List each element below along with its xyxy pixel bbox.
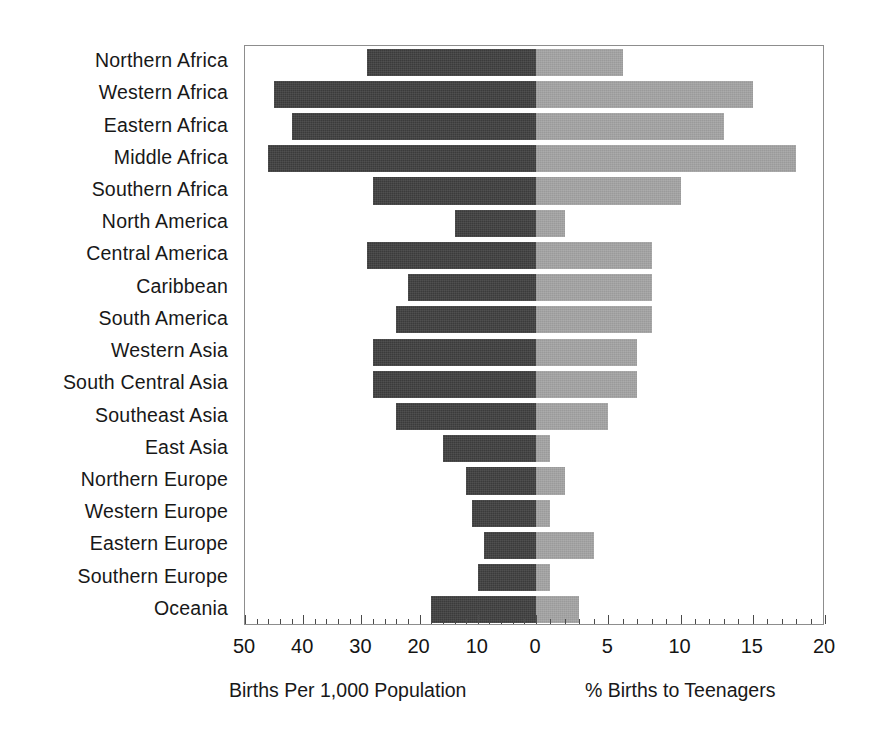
axis-tick-minor — [385, 619, 386, 624]
bar-row — [245, 49, 823, 76]
axis-tick-minor — [396, 619, 397, 624]
axis-tick-label: 50 — [214, 636, 274, 656]
category-label: Eastern Europe — [0, 534, 228, 554]
category-label: Oceania — [0, 599, 228, 619]
category-label: Eastern Africa — [0, 116, 228, 136]
axis-tick-minor — [724, 619, 725, 624]
axis-tick-minor — [738, 619, 739, 624]
axis-tick-major — [753, 615, 754, 624]
category-label: Western Asia — [0, 341, 228, 361]
bar-births-per-1000 — [292, 113, 536, 140]
axis-tick-minor — [782, 619, 783, 624]
bar-births-per-1000 — [455, 210, 536, 237]
axis-tick-minor — [292, 619, 293, 624]
plot-area — [244, 45, 824, 625]
axis-tick-minor — [513, 619, 514, 624]
bar-row — [245, 403, 823, 430]
bar-births-per-1000 — [478, 564, 536, 591]
bar-percent-teen-births — [536, 403, 608, 430]
axis-tick-major — [825, 615, 826, 624]
births-teen-pregnancy-chart: Northern AfricaWestern AfricaEastern Afr… — [0, 0, 881, 734]
axis-tick-minor — [709, 619, 710, 624]
axis-tick-major — [245, 615, 246, 624]
axis-tick-minor — [652, 619, 653, 624]
axis-tick-minor — [280, 619, 281, 624]
category-label: Northern Africa — [0, 51, 228, 71]
bar-row — [245, 81, 823, 108]
axis-tick-label: 30 — [330, 636, 390, 656]
bar-births-per-1000 — [373, 371, 536, 398]
bar-births-per-1000 — [373, 177, 536, 204]
bar-row — [245, 145, 823, 172]
bars-layer — [245, 46, 823, 624]
axis-tick-minor — [565, 619, 566, 624]
axis-tick-minor — [666, 619, 667, 624]
bar-percent-teen-births — [536, 371, 637, 398]
axis-tick-minor — [443, 619, 444, 624]
axis-tick-minor — [268, 619, 269, 624]
axis-tick-major — [478, 615, 479, 624]
bar-percent-teen-births — [536, 596, 579, 623]
bar-percent-teen-births — [536, 145, 796, 172]
axis-tick-minor — [637, 619, 638, 624]
category-label: Middle Africa — [0, 148, 228, 168]
bar-percent-teen-births — [536, 339, 637, 366]
axis-tick-major — [303, 615, 304, 624]
category-label: Western Europe — [0, 502, 228, 522]
axis-tick-minor — [594, 619, 595, 624]
bar-row — [245, 113, 823, 140]
axis-tick-minor — [796, 619, 797, 624]
axis-tick-minor — [695, 619, 696, 624]
bar-births-per-1000 — [431, 596, 536, 623]
axis-tick-minor — [455, 619, 456, 624]
left-axis-caption: Births Per 1,000 Population — [229, 681, 466, 701]
bar-percent-teen-births — [536, 564, 550, 591]
category-label: Northern Europe — [0, 470, 228, 490]
category-label: Southern Europe — [0, 567, 228, 587]
axis-tick-minor — [373, 619, 374, 624]
bar-births-per-1000 — [367, 49, 536, 76]
axis-tick-minor — [489, 619, 490, 624]
bar-row — [245, 274, 823, 301]
axis-tick-major — [536, 615, 537, 624]
axis-tick-minor — [579, 619, 580, 624]
category-label: South Central Asia — [0, 373, 228, 393]
bar-births-per-1000 — [408, 274, 536, 301]
bar-percent-teen-births — [536, 81, 753, 108]
bar-row — [245, 564, 823, 591]
bar-births-per-1000 — [396, 403, 536, 430]
axis-tick-label: 15 — [722, 636, 782, 656]
axis-tick-minor — [466, 619, 467, 624]
axis-tick-minor — [550, 619, 551, 624]
axis-tick-minor — [431, 619, 432, 624]
axis-tick-minor — [408, 619, 409, 624]
bar-row — [245, 435, 823, 462]
bar-percent-teen-births — [536, 435, 550, 462]
bar-births-per-1000 — [472, 500, 536, 527]
bar-row — [245, 242, 823, 269]
category-label: Southeast Asia — [0, 406, 228, 426]
bar-row — [245, 371, 823, 398]
bar-percent-teen-births — [536, 306, 652, 333]
bar-percent-teen-births — [536, 210, 565, 237]
axis-tick-minor — [623, 619, 624, 624]
category-label: Southern Africa — [0, 180, 228, 200]
bar-percent-teen-births — [536, 274, 652, 301]
axis-tick-label: 40 — [272, 636, 332, 656]
axis-tick-minor — [257, 619, 258, 624]
bar-percent-teen-births — [536, 467, 565, 494]
axis-tick-label: 0 — [505, 636, 565, 656]
bar-percent-teen-births — [536, 242, 652, 269]
axis-tick-minor — [767, 619, 768, 624]
category-axis-labels: Northern AfricaWestern AfricaEastern Afr… — [0, 45, 236, 625]
bar-births-per-1000 — [373, 339, 536, 366]
axis-tick-label: 5 — [577, 636, 637, 656]
right-axis-caption: % Births to Teenagers — [585, 681, 775, 701]
axis-tick-label: 20 — [794, 636, 854, 656]
category-label: South America — [0, 309, 228, 329]
bar-percent-teen-births — [536, 500, 550, 527]
bar-row — [245, 306, 823, 333]
bar-percent-teen-births — [536, 49, 623, 76]
axis-tick-minor — [326, 619, 327, 624]
bar-percent-teen-births — [536, 177, 681, 204]
